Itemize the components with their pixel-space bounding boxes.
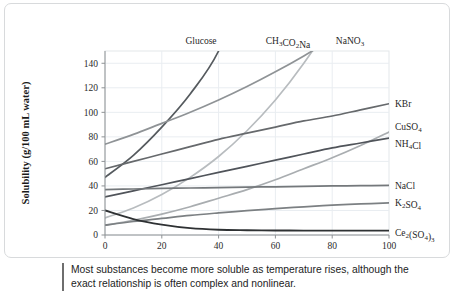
figure-card: 020406080100020406080100120140Temperatur… [4, 3, 450, 258]
series-label-glucose: Glucose [185, 36, 216, 46]
series-label-ch3co2na: CH3CO2Na [266, 36, 311, 50]
x-tick-label: 60 [271, 241, 281, 251]
y-tick-label: 60 [89, 157, 99, 167]
y-tick-label: 140 [84, 59, 99, 69]
series-label-kbr: KBr [395, 99, 412, 109]
y-tick-label: 20 [89, 206, 99, 216]
x-tick-label: 80 [327, 241, 337, 251]
curve-kbr [105, 104, 389, 169]
y-tick-label: 120 [84, 83, 99, 93]
solubility-chart: 020406080100020406080100120140Temperatur… [5, 4, 451, 259]
x-tick-label: 100 [382, 241, 397, 251]
x-axis-title: Temperature (°C) [207, 258, 287, 259]
figure-caption: Most substances become more soluble as t… [71, 263, 412, 291]
caption-block: Most substances become more soluble as t… [62, 263, 412, 291]
y-axis-title: Solubility (g/100 mL water) [20, 81, 32, 204]
series-label-nacl: NaCl [395, 181, 415, 191]
series-label-k2so4: K2SO4 [395, 198, 422, 212]
y-tick-label: 0 [93, 230, 98, 240]
y-tick-label: 100 [84, 108, 99, 118]
x-tick-label: 40 [214, 241, 224, 251]
x-tick-label: 20 [157, 241, 167, 251]
curve-nano3 [105, 4, 389, 144]
series-label-nano3: NaNO3 [336, 36, 365, 48]
x-tick-label: 0 [103, 241, 108, 251]
series-label-cuso4: CuSO4 [395, 122, 422, 134]
y-tick-label: 40 [89, 181, 99, 191]
series-label-nh4cl: NH4Cl [395, 139, 422, 151]
y-tick-label: 80 [89, 132, 99, 142]
series-label-ce2-so4-3: Ce2(SO4)3 [395, 228, 435, 244]
